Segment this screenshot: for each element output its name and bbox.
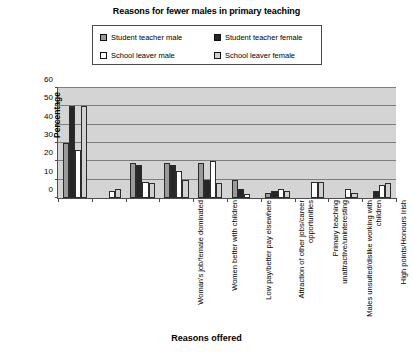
- y-tick-label: 0: [49, 186, 53, 194]
- x-tick-label: High points/Honours Irish: [399, 200, 408, 318]
- legend-row: Student teacher male Student teacher fem…: [93, 28, 321, 46]
- legend-swatch-icon: [100, 34, 107, 41]
- legend-swatch-icon: [214, 52, 221, 59]
- y-tick-label: 40: [44, 113, 53, 121]
- legend-swatch-icon: [214, 34, 221, 41]
- x-tick-label: Attraction of other jobs/career opportun…: [297, 200, 315, 318]
- bar-group: [58, 88, 92, 198]
- bar: [81, 106, 87, 198]
- chart-figure: Reasons for fewer males in primary teach…: [0, 0, 413, 355]
- bar-group: [159, 88, 193, 198]
- x-tick-label: Women better with children: [230, 200, 239, 318]
- y-tick-label: 50: [44, 94, 53, 102]
- legend-label: Student teacher female: [225, 33, 303, 42]
- legend-label: School leaver male: [111, 51, 175, 60]
- bar-group: [362, 88, 396, 198]
- chart-legend: Student teacher male Student teacher fem…: [92, 25, 322, 65]
- bar-group: [227, 88, 261, 198]
- legend-item-student-teacher-female: Student teacher female: [210, 28, 321, 46]
- bar-group: [92, 88, 126, 198]
- bar: [385, 183, 391, 198]
- plot-area: Percentage 0102030405060: [57, 88, 396, 199]
- legend-swatch-icon: [100, 52, 107, 59]
- legend-item-student-teacher-male: Student teacher male: [93, 28, 210, 46]
- bars-layer: [58, 88, 396, 198]
- x-axis-tick-labels: Woman's job/female dominatedWomen better…: [57, 200, 395, 325]
- y-tick-label: 60: [44, 76, 53, 84]
- bar: [115, 189, 121, 198]
- bar: [182, 180, 188, 198]
- x-tick-label: Primary teaching unattractive/uninterest…: [331, 200, 349, 318]
- y-tick-label: 30: [44, 131, 53, 139]
- x-axis-title: Reasons offered: [0, 333, 413, 343]
- legend-label: School leaver female: [225, 51, 295, 60]
- legend-item-school-leaver-female: School leaver female: [210, 46, 321, 64]
- y-tick-label: 10: [44, 168, 53, 176]
- bar-group: [261, 88, 295, 198]
- bar-group: [295, 88, 329, 198]
- x-tick-label: Males unsuited/dislike working with chil…: [365, 200, 383, 318]
- y-tick-label: 20: [44, 149, 53, 157]
- bar: [284, 191, 290, 198]
- bar-group: [328, 88, 362, 198]
- bar: [318, 182, 324, 199]
- bar-group: [126, 88, 160, 198]
- legend-label: Student teacher male: [111, 33, 182, 42]
- x-tick-label: Woman's job/female dominated: [196, 200, 205, 318]
- bar-group: [193, 88, 227, 198]
- legend-item-school-leaver-male: School leaver male: [93, 46, 210, 64]
- bar: [216, 183, 222, 198]
- x-tick-label: Low pay/better pay elsewhere: [264, 200, 273, 318]
- legend-row: School leaver male School leaver female: [93, 46, 321, 64]
- x-tick-mark: [396, 198, 397, 202]
- bar: [149, 183, 155, 198]
- chart-title: Reasons for fewer males in primary teach…: [0, 6, 413, 16]
